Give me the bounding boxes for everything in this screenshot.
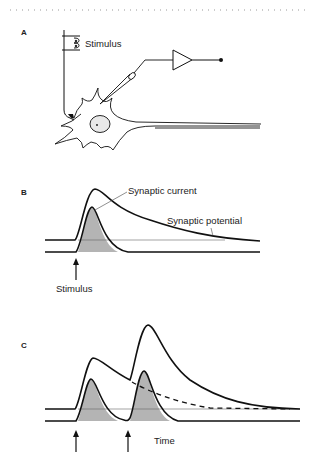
synaptic-current-fill-1 xyxy=(78,379,118,421)
panel-c: C Time xyxy=(21,325,300,452)
arrow-up-icon xyxy=(73,430,79,437)
potential-leader xyxy=(211,228,213,236)
recording-electrode xyxy=(100,60,173,104)
output-terminal xyxy=(219,58,223,62)
stimulus-electrode xyxy=(62,30,80,120)
nucleolus xyxy=(96,124,98,126)
amplifier-triangle-icon xyxy=(173,50,192,70)
panel-c-label: C xyxy=(21,341,27,350)
stimulus-label-a: Stimulus xyxy=(85,38,122,49)
panel-a: A Stimulus xyxy=(21,28,261,150)
synaptic-current-label: Synaptic current xyxy=(128,185,197,196)
nucleus xyxy=(90,116,110,133)
neuron xyxy=(55,88,261,150)
coil-icon xyxy=(74,38,79,48)
amplifier xyxy=(173,50,223,70)
stimulus-arrow-b xyxy=(73,258,79,280)
time-label: Time xyxy=(154,435,175,446)
stimulus-label-b: Stimulus xyxy=(56,283,93,294)
stimulus-arrow-c2 xyxy=(125,430,131,452)
arrow-up-icon xyxy=(125,430,131,437)
panel-b: B Synaptic current Synaptic potential St… xyxy=(21,185,260,294)
panel-b-label: B xyxy=(21,188,27,197)
synaptic-diagram: A Stimulus xyxy=(0,0,311,466)
synaptic-potential-label: Synaptic potential xyxy=(167,215,242,226)
arrow-up-icon xyxy=(73,258,79,265)
panel-a-label: A xyxy=(21,28,27,37)
stimulus-arrow-c1 xyxy=(73,430,79,452)
synaptic-current-trace xyxy=(45,207,260,252)
